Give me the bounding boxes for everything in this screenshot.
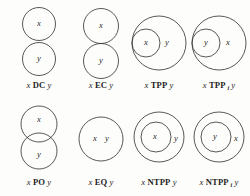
- caption-relation-subscript: i: [231, 181, 233, 188]
- caption-relation: TPP: [209, 80, 226, 90]
- region-label-y: y: [104, 133, 109, 143]
- caption-tpp: xTPPy: [128, 80, 190, 91]
- outer-region-circle: [132, 16, 186, 70]
- region-circle-xy: [79, 117, 123, 161]
- relation-cell-po: x y xPOy: [8, 99, 70, 196]
- region-label-x: x: [98, 20, 103, 30]
- outer-region-label: y: [173, 133, 178, 143]
- region-label-x: x: [92, 133, 97, 143]
- region-label-x: x: [36, 18, 41, 28]
- diagram-eq: x y: [70, 99, 132, 177]
- caption-relation: DC: [33, 80, 46, 90]
- relation-cell-dc: x y xDCy: [8, 2, 70, 100]
- caption-left-var: x: [89, 80, 93, 90]
- relation-cell-tpp: x y xTPPy: [128, 2, 190, 100]
- inner-region-label: y: [212, 131, 217, 141]
- caption-relation: TPP: [151, 80, 168, 90]
- caption-right-var: y: [170, 80, 174, 90]
- caption-left-var: x: [141, 177, 145, 187]
- region-circle-x: [21, 106, 57, 142]
- caption-ntpp: xNTPPy: [128, 177, 190, 188]
- diagram-tppi: y x: [188, 2, 250, 80]
- diagram-dc: x y: [8, 2, 70, 80]
- caption-right-var: y: [110, 177, 114, 187]
- caption-relation: NTPP: [147, 177, 170, 187]
- caption-dc: xDCy: [8, 80, 70, 91]
- relation-cell-eq: x y xEQy: [70, 99, 132, 196]
- caption-left-var: x: [203, 80, 207, 90]
- outer-region-label: x: [225, 37, 230, 47]
- caption-eq: xEQy: [70, 177, 132, 188]
- caption-left-var: x: [89, 177, 93, 187]
- caption-left-var: x: [145, 80, 149, 90]
- relation-cell-tppi: y x xTPPi y: [188, 2, 250, 100]
- caption-right-var: y: [47, 177, 51, 187]
- caption-ec: xECy: [70, 80, 132, 91]
- caption-ntppi: xNTPPi y: [188, 177, 250, 190]
- caption-right-var: y: [234, 177, 238, 187]
- relation-cell-ntpp: x y xNTPPy: [128, 99, 190, 196]
- relation-cell-ntppi: y x xNTPPi y: [188, 99, 250, 196]
- region-label-y: y: [36, 53, 41, 63]
- relation-cell-ec: x y xECy: [70, 2, 132, 100]
- region-label-x: x: [36, 114, 41, 124]
- caption-tppi: xTPPi y: [188, 80, 250, 93]
- outer-region-circle: [192, 16, 246, 70]
- caption-right-var: y: [109, 80, 113, 90]
- caption-left-var: x: [27, 177, 31, 187]
- outer-region-label: x: [233, 133, 238, 143]
- outer-region-label: y: [164, 37, 169, 47]
- caption-relation-subscript: i: [227, 84, 229, 91]
- caption-left-var: x: [200, 177, 204, 187]
- rcc8-relations-figure: x y xDCy x y xECy x y: [0, 0, 250, 196]
- caption-relation: NTPP: [206, 177, 229, 187]
- caption-right-var: y: [48, 80, 52, 90]
- caption-po: xPOy: [8, 177, 70, 188]
- caption-right-var: y: [231, 80, 235, 90]
- caption-right-var: y: [173, 177, 177, 187]
- inner-region-label: x: [143, 37, 148, 47]
- diagram-ntpp: x y: [128, 99, 190, 177]
- region-label-y: y: [36, 149, 41, 159]
- diagram-ntppi: y x: [188, 99, 250, 177]
- region-label-y: y: [98, 55, 103, 65]
- inner-region-label: x: [152, 131, 157, 141]
- caption-relation: EQ: [95, 177, 108, 187]
- inner-region-label: y: [203, 37, 208, 47]
- diagram-tpp: x y: [128, 2, 190, 80]
- caption-relation: PO: [33, 177, 45, 187]
- diagram-po: x y: [8, 99, 70, 177]
- caption-left-var: x: [27, 80, 31, 90]
- caption-relation: EC: [95, 80, 107, 90]
- diagram-ec: x y: [70, 2, 132, 80]
